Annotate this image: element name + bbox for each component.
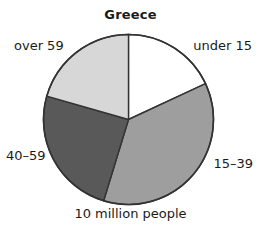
pie-chart-figure: Greece over 59 under 15 40–59 15–39 10 m… xyxy=(0,0,261,233)
pie-label-40-59: 40–59 xyxy=(6,148,46,163)
chart-caption: 10 million people xyxy=(0,206,261,221)
pie-chart-graphic xyxy=(0,0,261,233)
pie-label-under-15: under 15 xyxy=(193,38,252,53)
pie-label-15-39: 15–39 xyxy=(213,156,253,171)
pie-label-over-59: over 59 xyxy=(14,38,64,53)
